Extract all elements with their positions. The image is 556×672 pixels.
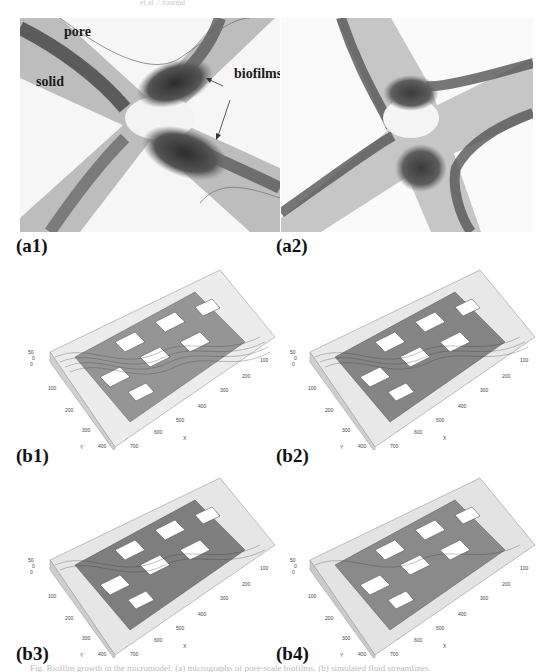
svg-text:200: 200 (65, 615, 74, 621)
svg-text:X: X (443, 435, 447, 441)
annotation-biofilms: biofilms (234, 66, 280, 82)
svg-text:600: 600 (154, 429, 163, 435)
svg-text:X: X (443, 643, 447, 649)
svg-text:X: X (183, 435, 187, 441)
svg-text:700: 700 (390, 443, 399, 449)
svg-text:200: 200 (242, 373, 251, 379)
pore-cross-image (20, 18, 280, 232)
svg-text:100: 100 (308, 593, 317, 599)
svg-text:300: 300 (82, 635, 91, 641)
plot-3d-b2: 50 0 0 100 200 300 400 Y 100 200 300 400… (290, 262, 550, 450)
panel-label-b4: (b4) (276, 644, 309, 664)
svg-text:0: 0 (30, 361, 33, 367)
streamline-plot: 50 0 0 100 200 300 400 Y 100 200 300 400… (20, 470, 280, 658)
svg-text:0: 0 (292, 361, 295, 367)
svg-text:400: 400 (358, 443, 367, 449)
panel-label-b1: (b1) (16, 446, 49, 466)
svg-text:400: 400 (458, 403, 467, 409)
svg-text:300: 300 (342, 635, 351, 641)
svg-text:300: 300 (480, 387, 489, 393)
streamline-plot: 50 0 0 100 200 300 400 Y 100 200 300 400… (290, 470, 550, 658)
streamline-plot: 50 0 0 100 200 300 400 Y 100 200 300 400… (290, 262, 550, 450)
svg-text:Y: Y (80, 652, 84, 658)
svg-text:200: 200 (325, 615, 334, 621)
panel-label-b2: (b2) (276, 446, 309, 466)
micrograph-a1: pore solid biofilms (20, 18, 280, 232)
svg-text:200: 200 (242, 581, 251, 587)
svg-text:400: 400 (98, 443, 107, 449)
plot-3d-b1: 50 0 0 100 200 300 400 Y 100 200 300 400… (20, 262, 280, 450)
svg-text:200: 200 (502, 373, 511, 379)
svg-text:500: 500 (436, 625, 445, 631)
panel-label-a1: (a1) (16, 236, 48, 256)
svg-text:0: 0 (30, 569, 33, 575)
svg-text:100: 100 (260, 357, 269, 363)
svg-text:100: 100 (48, 593, 57, 599)
svg-text:Y: Y (340, 444, 344, 450)
svg-text:300: 300 (82, 427, 91, 433)
panel-label-b3: (b3) (16, 644, 49, 664)
svg-text:400: 400 (358, 651, 367, 657)
annotation-pore: pore (64, 24, 91, 40)
figure-caption: Fig. Biofilm growth in the micromodel: (… (30, 664, 550, 672)
svg-text:200: 200 (502, 581, 511, 587)
plot-3d-b4: 50 0 0 100 200 300 400 Y 100 200 300 400… (290, 470, 550, 658)
streamline-plot: 50 0 0 100 200 300 400 Y 100 200 300 400… (20, 262, 280, 450)
svg-text:100: 100 (308, 385, 317, 391)
svg-text:500: 500 (176, 625, 185, 631)
svg-text:200: 200 (65, 407, 74, 413)
svg-text:600: 600 (414, 637, 423, 643)
svg-text:600: 600 (154, 637, 163, 643)
svg-text:200: 200 (325, 407, 334, 413)
svg-text:300: 300 (342, 427, 351, 433)
svg-text:X: X (183, 643, 187, 649)
svg-text:400: 400 (198, 403, 207, 409)
svg-text:300: 300 (220, 387, 229, 393)
svg-text:700: 700 (390, 651, 399, 657)
svg-text:100: 100 (520, 357, 529, 363)
annotation-solid: solid (36, 74, 64, 90)
svg-text:700: 700 (130, 443, 139, 449)
running-header: et al. / Journal (140, 0, 260, 6)
svg-text:400: 400 (458, 611, 467, 617)
micrograph-a2 (281, 18, 533, 232)
svg-text:0: 0 (292, 569, 295, 575)
panel-label-a2: (a2) (276, 236, 308, 256)
svg-text:300: 300 (480, 595, 489, 601)
svg-text:Y: Y (340, 652, 344, 658)
svg-text:100: 100 (520, 565, 529, 571)
svg-text:700: 700 (130, 651, 139, 657)
svg-text:500: 500 (176, 417, 185, 423)
svg-text:Y: Y (80, 444, 84, 450)
svg-text:300: 300 (220, 595, 229, 601)
svg-text:600: 600 (414, 429, 423, 435)
svg-text:400: 400 (98, 651, 107, 657)
svg-text:100: 100 (260, 565, 269, 571)
svg-text:500: 500 (436, 417, 445, 423)
plot-3d-b3: 50 0 0 100 200 300 400 Y 100 200 300 400… (20, 470, 280, 658)
svg-text:400: 400 (198, 611, 207, 617)
svg-text:100: 100 (48, 385, 57, 391)
pore-cross-image (281, 18, 533, 232)
